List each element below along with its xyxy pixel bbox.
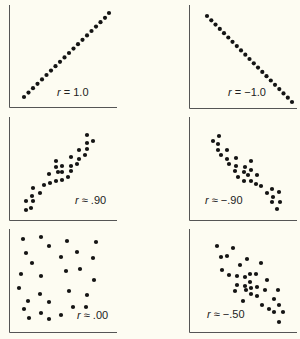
data-point (26, 299, 30, 303)
data-point (278, 200, 282, 204)
data-point (277, 190, 281, 194)
correlation-label: r ≈ −.50 (207, 308, 245, 320)
correlation-label: r ≈ .00 (77, 309, 108, 321)
data-point (42, 183, 46, 187)
data-point (59, 313, 63, 317)
data-point (264, 74, 268, 78)
data-point (67, 51, 71, 55)
data-point (17, 286, 21, 290)
data-point (58, 60, 62, 64)
data-point (270, 187, 274, 191)
data-point (60, 178, 64, 182)
data-point (235, 274, 239, 278)
data-point (67, 289, 71, 293)
data-point (259, 261, 263, 265)
data-point (263, 288, 267, 292)
data-point (47, 300, 51, 304)
data-point (59, 255, 63, 259)
data-point (243, 284, 247, 288)
data-point (215, 244, 219, 248)
correlation-label: r ≈ .90 (75, 194, 106, 206)
data-point (85, 33, 89, 37)
data-point (225, 148, 229, 152)
data-point (85, 293, 89, 297)
data-point (213, 23, 217, 27)
data-point (243, 275, 247, 279)
data-point (225, 157, 229, 161)
data-point (267, 307, 271, 311)
data-point (242, 179, 246, 183)
data-point (85, 133, 89, 137)
data-point (54, 179, 58, 183)
data-point (94, 240, 98, 244)
data-point (35, 82, 39, 86)
data-point (75, 250, 79, 254)
data-point (242, 170, 246, 174)
data-point (217, 134, 221, 138)
data-point (247, 57, 251, 61)
data-point (216, 148, 220, 152)
data-point (254, 272, 258, 276)
scatter-panel-3: r ≈ .90 (10, 117, 118, 221)
data-point (26, 91, 30, 95)
scatter-panel-4: r ≈ −.90 (190, 117, 298, 221)
data-point (227, 162, 231, 166)
data-point (260, 303, 264, 307)
correlation-scatterplots: r = 1.0r = −1.0r ≈ .90r ≈ −.90r ≈ .00r ≈… (0, 0, 300, 339)
data-point (76, 42, 80, 46)
data-point (103, 16, 107, 20)
data-point (39, 235, 43, 239)
scatter-panel-2: r = −1.0 (190, 5, 298, 109)
data-point (241, 299, 245, 303)
data-point (30, 194, 34, 198)
data-point (80, 38, 84, 42)
data-point (56, 170, 60, 174)
data-point (24, 208, 28, 212)
data-point (54, 159, 58, 163)
data-point (265, 278, 269, 282)
data-point (22, 307, 26, 311)
data-point (272, 310, 276, 314)
data-point (246, 173, 250, 177)
data-point (269, 78, 273, 82)
data-point (60, 170, 64, 174)
data-point (255, 294, 259, 298)
data-point (85, 141, 89, 145)
scatter-panel-6: r ≈ −.50 (190, 229, 298, 333)
data-point (249, 159, 253, 163)
data-point (248, 280, 252, 284)
data-point (277, 320, 281, 324)
data-point (230, 40, 234, 44)
data-point (219, 255, 223, 259)
scatter-panel-1: r = 1.0 (10, 5, 118, 108)
data-point (39, 274, 43, 278)
data-point (211, 139, 215, 143)
data-point (277, 87, 281, 91)
data-point (75, 162, 79, 166)
data-point (39, 311, 43, 315)
data-point (281, 91, 285, 95)
data-point (273, 83, 277, 87)
data-point (265, 191, 269, 195)
data-point (243, 53, 247, 57)
data-point (270, 200, 274, 204)
data-point (272, 297, 276, 301)
data-point (271, 195, 275, 199)
data-point (243, 165, 247, 169)
data-point (69, 164, 73, 168)
data-point (276, 288, 280, 292)
data-point (236, 175, 240, 179)
data-point (245, 257, 249, 261)
data-point (98, 20, 102, 24)
data-point (219, 153, 223, 157)
data-point (31, 186, 35, 190)
data-point (71, 305, 75, 309)
data-point (256, 66, 260, 70)
data-point (275, 207, 279, 211)
data-point (91, 256, 95, 260)
data-point (38, 191, 42, 195)
data-point (19, 272, 23, 276)
data-point (244, 288, 248, 292)
data-point (60, 164, 64, 168)
data-point (78, 267, 82, 271)
